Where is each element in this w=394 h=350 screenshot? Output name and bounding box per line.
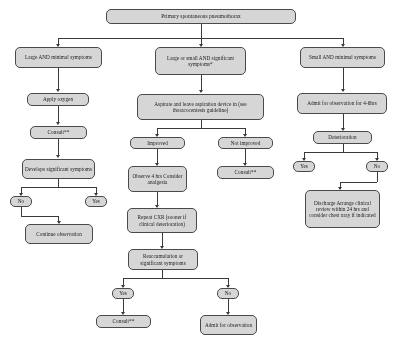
node-left-yes-label: Yes (88, 198, 104, 204)
connector-right-1 (343, 68, 344, 90)
node-deterioration: Deterioration (313, 131, 372, 144)
node-mid-no-label: No (220, 290, 236, 296)
connector-left-3 (58, 139, 59, 156)
connector-not-improved-down (245, 149, 246, 164)
node-left-no: No (10, 196, 32, 207)
node-branch-left-label: Large AND minimal symptoms (18, 54, 99, 60)
connector-root-stem (201, 24, 202, 38)
connector-mid-yes-down (123, 299, 124, 313)
node-right-admit: Admit for observation for 4-6hrs (297, 93, 387, 114)
node-aspirate-label: Aspirate and leave aspiration device in … (140, 101, 261, 113)
arrow-left-1 (56, 89, 60, 92)
node-right-yes: Yes (293, 161, 315, 172)
connector-improved-down (157, 149, 158, 164)
node-admit-for-observation-label: Admit for observation (203, 322, 254, 328)
node-branch-right-label: Small AND minimal symptoms (303, 54, 382, 60)
node-root: Primary spontaneous pneumothorax (106, 9, 296, 24)
node-continue-observation: Continue observation (25, 224, 93, 244)
node-reaccumulation: Reaccumulation or significant symptoms (128, 249, 198, 270)
node-right-admit-label: Admit for observation for 4-6hrs (300, 100, 384, 106)
node-not-improved: Not improved (218, 137, 273, 149)
node-right-no-label: No (369, 163, 385, 169)
arrow-left-2 (56, 122, 60, 125)
connector-right-split-bus (304, 152, 377, 153)
node-mid-no: No (217, 288, 239, 299)
node-deterioration-label: Deterioration (316, 134, 369, 140)
node-mid-consult-2: Consult** (96, 315, 151, 328)
connector-right-no-elbow (340, 182, 377, 183)
arrow-right-1 (341, 89, 345, 92)
node-apply-oxygen: Apply oxygen (27, 93, 89, 106)
node-left-consult-label: Consult** (33, 129, 84, 135)
connector-left-no-elbow (21, 216, 59, 217)
node-root-label: Primary spontaneous pneumothorax (109, 13, 293, 19)
node-observe-4hrs-label: Observe 4 hrs Consider analgesia (131, 173, 184, 185)
node-continue-observation-label: Continue observation (28, 231, 90, 237)
connector-cxr-to-reaccum (162, 233, 163, 247)
node-right-yes-label: Yes (296, 163, 312, 169)
connector-observe-to-cxr (157, 192, 158, 206)
node-left-yes: Yes (85, 196, 107, 207)
connector-right-2 (343, 114, 344, 129)
node-improved: Improved (130, 137, 185, 149)
node-right-no: No (366, 161, 388, 172)
node-aspirate: Aspirate and leave aspiration device in … (137, 94, 264, 120)
node-discharge: Discharge Arrange clinical review within… (305, 190, 380, 228)
connector-reaccum-split-bus (123, 278, 228, 279)
node-discharge-label: Discharge Arrange clinical review within… (308, 200, 377, 218)
node-not-improved-label: Not improved (221, 140, 270, 146)
node-mid-consult-label: Consult** (220, 169, 271, 175)
node-mid-yes-label: Yes (115, 290, 131, 296)
connector-left-split-bus (21, 187, 96, 188)
node-branch-left: Large AND minimal symptoms (15, 47, 102, 68)
node-repeat-cxr-label: Repeat CXR (sooner if clinical deteriora… (130, 214, 194, 226)
node-repeat-cxr: Repeat CXR (sooner if clinical deteriora… (127, 208, 197, 233)
node-mid-consult-2-label: Consult** (99, 318, 148, 324)
node-left-consult: Consult** (30, 126, 87, 139)
connector-left-2 (58, 106, 59, 123)
node-mid-yes: Yes (112, 288, 134, 299)
connector-right-no-down (377, 172, 378, 182)
node-left-no-label: No (13, 198, 29, 204)
node-improved-label: Improved (133, 140, 182, 146)
connector-mid-no-down (228, 299, 229, 313)
node-develops-label: Develops significant symptoms (25, 166, 92, 172)
connector-mid-1 (201, 75, 202, 91)
node-branch-right: Small AND minimal symptoms (300, 47, 385, 68)
node-observe-4hrs: Observe 4 hrs Consider analgesia (128, 166, 187, 192)
node-branch-mid-label: Large or small AND significant symptoms* (158, 55, 243, 67)
node-apply-oxygen-label: Apply oxygen (30, 96, 86, 102)
connector-left-1 (58, 68, 59, 90)
connector-mid-split-bus (157, 128, 245, 129)
arrow-left-3 (56, 155, 60, 158)
node-admit-for-observation: Admit for observation (200, 315, 257, 335)
node-develops-significant-symptoms: Develops significant symptoms (22, 159, 95, 179)
flowchart-canvas: Primary spontaneous pneumothorax Large A… (0, 0, 394, 350)
node-mid-consult: Consult** (217, 166, 274, 179)
node-reaccumulation-label: Reaccumulation or significant symptoms (131, 253, 195, 265)
arrow-mid-1 (199, 90, 203, 93)
node-branch-mid: Large or small AND significant symptoms* (155, 47, 246, 75)
